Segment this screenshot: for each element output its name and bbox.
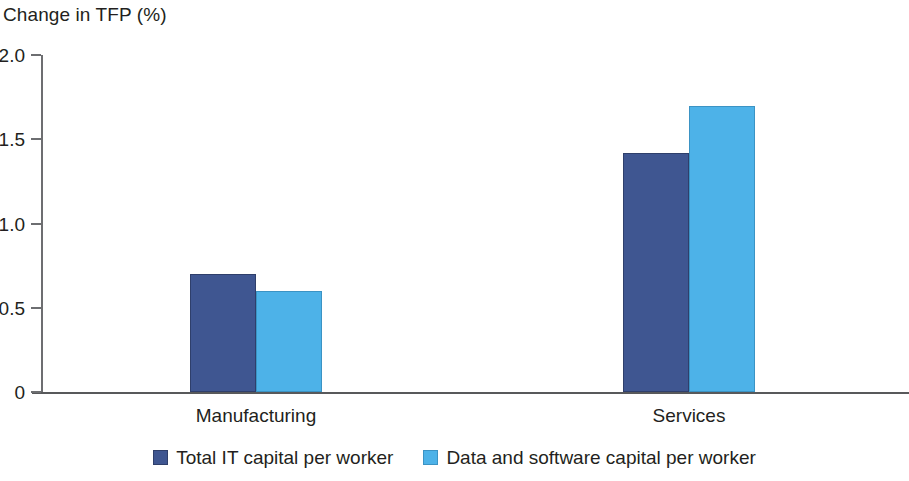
y-axis-tick: 1.0 — [31, 223, 41, 225]
y-axis-tick: 0 — [31, 391, 41, 393]
x-axis-label-manufacturing: Manufacturing — [196, 405, 316, 427]
x-axis-line — [32, 392, 909, 394]
y-axis-tick-label: 2.0 — [0, 46, 25, 65]
bar-chart: Change in TFP (%) 2.01.51.00.50 Manufact… — [0, 0, 909, 481]
legend-label: Data and software capital per worker — [446, 448, 755, 467]
y-axis-tick-label: 0 — [14, 383, 25, 402]
bar-services-series-2 — [689, 106, 755, 392]
plot-area: 2.01.51.00.50 ManufacturingServices — [41, 55, 909, 392]
chart-legend: Total IT capital per workerData and soft… — [0, 448, 909, 467]
y-axis-line — [41, 55, 43, 392]
x-axis-label-services: Services — [653, 405, 726, 427]
y-axis-tick: 2.0 — [31, 54, 41, 56]
legend-item-2[interactable]: Data and software capital per worker — [423, 448, 755, 467]
legend-swatch-icon — [423, 450, 438, 465]
legend-item-1[interactable]: Total IT capital per worker — [153, 448, 393, 467]
y-axis-tick: 0.5 — [31, 307, 41, 309]
legend-label: Total IT capital per worker — [176, 448, 393, 467]
chart-title: Change in TFP (%) — [3, 4, 167, 26]
y-axis-tick: 1.5 — [31, 138, 41, 140]
bar-manufacturing-series-2 — [256, 291, 322, 392]
legend-swatch-icon — [153, 450, 168, 465]
y-axis-tick-label: 1.5 — [0, 130, 25, 149]
bar-services-series-1 — [623, 153, 689, 392]
bar-manufacturing-series-1 — [190, 274, 256, 392]
y-axis-tick-label: 1.0 — [0, 214, 25, 233]
y-axis-tick-label: 0.5 — [0, 298, 25, 317]
